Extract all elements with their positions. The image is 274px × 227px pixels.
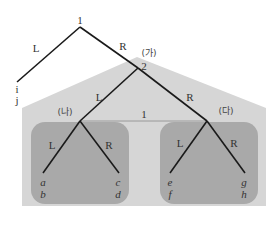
- na-right-label: R: [105, 139, 113, 151]
- edge-root-left: [17, 27, 80, 82]
- da-right-label: R: [230, 137, 238, 149]
- root-right-label: R: [119, 40, 127, 52]
- ga-left-label: L: [96, 91, 103, 103]
- subgame-da-label: (다): [218, 106, 233, 116]
- ga-right-label: R: [186, 91, 194, 103]
- payoff-h: h: [241, 188, 247, 200]
- payoff-b: b: [40, 188, 46, 200]
- payoff-c: c: [116, 176, 121, 188]
- payoff-g: g: [241, 176, 247, 188]
- subgame-na-label: (나): [57, 107, 72, 117]
- edge-root-right: [80, 27, 138, 68]
- ga-player-label: 2: [141, 60, 147, 72]
- info-set-player-label: 1: [141, 108, 147, 120]
- root-player-label: 1: [77, 14, 83, 26]
- root-left-label: L: [33, 42, 40, 54]
- payoff-d: d: [115, 188, 121, 200]
- subgame-ga-label: (가): [141, 48, 156, 58]
- payoff-j: j: [14, 94, 18, 106]
- da-left-label: L: [177, 137, 184, 149]
- payoff-e: e: [168, 176, 173, 188]
- payoff-a: a: [40, 176, 46, 188]
- game-tree-diagram: 1 L R i j (가) 2 L R 1 (나) L R (다) L R a …: [0, 0, 274, 227]
- na-left-label: L: [49, 139, 56, 151]
